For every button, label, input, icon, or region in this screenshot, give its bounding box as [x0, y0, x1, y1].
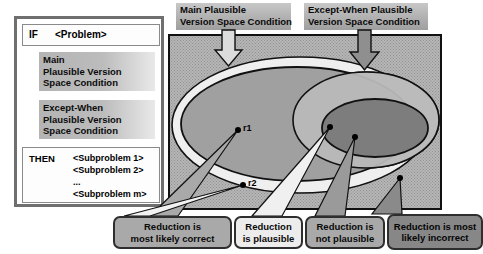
callout-most-likely-correct[interactable]: Reduction is most likely correct	[113, 216, 232, 249]
callout-line1: Reduction is most	[394, 221, 476, 233]
callout-line1: Reduction is	[316, 221, 373, 233]
leader-most-likely-incorrect	[372, 178, 402, 214]
callout-line1: Reduction	[245, 221, 291, 233]
callout-plausible[interactable]: Reduction is plausible	[234, 216, 303, 249]
point-r2	[240, 182, 246, 188]
point-r1	[235, 127, 241, 133]
point-p5	[397, 175, 403, 181]
callout-line2: not plausible	[316, 233, 375, 245]
point-p4	[352, 134, 358, 140]
point-label-r1: r1	[243, 123, 252, 133]
main-arrow-icon	[215, 30, 242, 66]
except-when-inner-region	[322, 99, 428, 157]
point-label-r2: r2	[248, 178, 257, 188]
callout-most-likely-incorrect[interactable]: Reduction is most likely incorrect	[387, 214, 483, 250]
callout-not-plausible[interactable]: Reduction is not plausible	[305, 216, 385, 249]
callout-line2: most likely correct	[131, 233, 215, 245]
callout-line2: likely incorrect	[401, 232, 468, 244]
callout-line1: Reduction is	[144, 221, 201, 233]
point-p3	[327, 124, 333, 130]
callout-line2: is plausible	[243, 233, 295, 245]
